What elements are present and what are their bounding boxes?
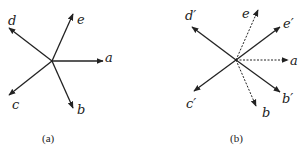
label-c: c (12, 97, 20, 112)
vector-c-prime (194, 60, 236, 91)
label-d: d (8, 13, 16, 28)
label-b: b (77, 102, 85, 117)
vector-b-prime (236, 60, 280, 92)
label-e: e (77, 12, 85, 27)
label-a: a (105, 50, 113, 65)
vector-diagram: a b c d e (a) a b e b′ c′ d′ e′ (b) (0, 0, 303, 151)
caption-b: (b) (230, 132, 243, 145)
label-c-prime: c′ (186, 96, 196, 111)
label-e-b: e (242, 6, 250, 21)
vector-b (52, 61, 73, 108)
vector-e-prime (236, 27, 280, 60)
vector-c (9, 61, 52, 95)
vector-e (52, 14, 73, 61)
panel-a: a b c d e (a) (8, 12, 113, 145)
label-b-prime: b′ (282, 91, 293, 106)
label-b-b: b (262, 105, 270, 120)
panel-b: a b e b′ c′ d′ e′ (b) (185, 6, 298, 145)
caption-a: (a) (42, 132, 55, 145)
vector-d (9, 28, 52, 61)
label-d-prime: d′ (185, 8, 196, 23)
vector-d-prime (192, 27, 236, 60)
label-e-prime: e′ (283, 16, 294, 31)
label-a-b: a (290, 53, 298, 68)
